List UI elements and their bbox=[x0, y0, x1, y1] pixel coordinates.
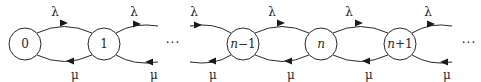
arrival-rate-label: λ bbox=[345, 5, 353, 19]
transition-n-minus-1-to-ellipsis bbox=[190, 55, 231, 65]
service-rate-label: μ bbox=[150, 68, 158, 82]
service-rate-label: μ bbox=[71, 68, 79, 82]
state-label-var: n bbox=[387, 37, 395, 51]
state-1: 1 bbox=[88, 28, 120, 60]
transition-ellipsis-to-n-minus-1 bbox=[190, 22, 231, 34]
service-rate-label: μ bbox=[365, 68, 373, 82]
state-0: 0 bbox=[9, 28, 41, 60]
ellipsis-middle: ··· bbox=[166, 36, 180, 50]
transition-1-to-0 bbox=[37, 55, 92, 65]
state-n: n bbox=[305, 28, 337, 60]
state-label: n bbox=[317, 37, 325, 51]
birth-death-chain-diagram: 0 1 n−1 n n+1 ··· ··· λ λ λ λ λ λ μ μ μ bbox=[0, 0, 481, 82]
state-n-plus-1: n+1 bbox=[384, 28, 416, 60]
state-label: n−1 bbox=[230, 37, 255, 51]
transition-n-to-n-minus-1 bbox=[255, 55, 309, 65]
service-rate-label: μ bbox=[209, 68, 217, 82]
arrival-rate-label: λ bbox=[190, 5, 198, 19]
arrival-rate-label: λ bbox=[424, 5, 432, 19]
state-label-suffix: +1 bbox=[395, 37, 413, 51]
transition-ellipsis-to-n-plus-1 bbox=[412, 55, 452, 66]
transition-n-to-n-plus-1 bbox=[333, 20, 388, 34]
arrival-rate-label: λ bbox=[51, 5, 59, 19]
state-label: 0 bbox=[21, 37, 29, 51]
transition-n-plus-1-to-n bbox=[333, 55, 388, 65]
service-rate-label: μ bbox=[287, 68, 295, 82]
ellipsis-right: ··· bbox=[462, 36, 476, 50]
arrival-rate-label: λ bbox=[268, 5, 276, 19]
arrival-rate-label: λ bbox=[130, 5, 138, 19]
transition-ellipsis-to-1 bbox=[116, 55, 158, 66]
transition-n-minus-1-to-n bbox=[255, 20, 309, 34]
transition-0-to-1 bbox=[37, 20, 92, 34]
state-label: n+1 bbox=[387, 37, 412, 51]
transition-n-plus-1-to-ellipsis bbox=[412, 21, 452, 34]
state-n-minus-1: n−1 bbox=[227, 28, 259, 60]
transition-1-to-ellipsis bbox=[116, 21, 158, 34]
state-label-suffix: −1 bbox=[238, 37, 256, 51]
service-rate-label: μ bbox=[443, 68, 451, 82]
state-label: 1 bbox=[100, 37, 108, 51]
state-label-var: n bbox=[230, 37, 238, 51]
